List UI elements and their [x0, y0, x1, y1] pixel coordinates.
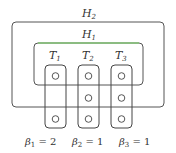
h2-label: H2	[81, 7, 97, 21]
t1-label: T1	[49, 49, 61, 63]
t2-column	[78, 65, 99, 128]
t1-node-1	[52, 73, 59, 80]
t2-node-3	[85, 116, 92, 123]
beta3-label: β3 = 1	[118, 136, 150, 149]
beta1-label: β1 = 2	[24, 136, 56, 149]
beta2-label: β2 = 1	[71, 136, 103, 149]
t2-node-2	[85, 95, 92, 102]
t1-node-2	[52, 116, 59, 123]
t2-label: T2	[82, 49, 94, 63]
t3-column	[111, 65, 132, 128]
t3-node-3	[118, 116, 125, 123]
t3-node-1	[118, 73, 125, 80]
h1-label: H1	[81, 28, 96, 42]
t2-node-1	[85, 73, 92, 80]
t1-column	[45, 65, 66, 128]
hypergraph-diagram: H2 H1 T1 T2 T3 β1 = 2 β2 = 1 β3 = 1	[0, 0, 176, 153]
t3-label: T3	[115, 49, 127, 63]
t3-node-2	[118, 95, 125, 102]
